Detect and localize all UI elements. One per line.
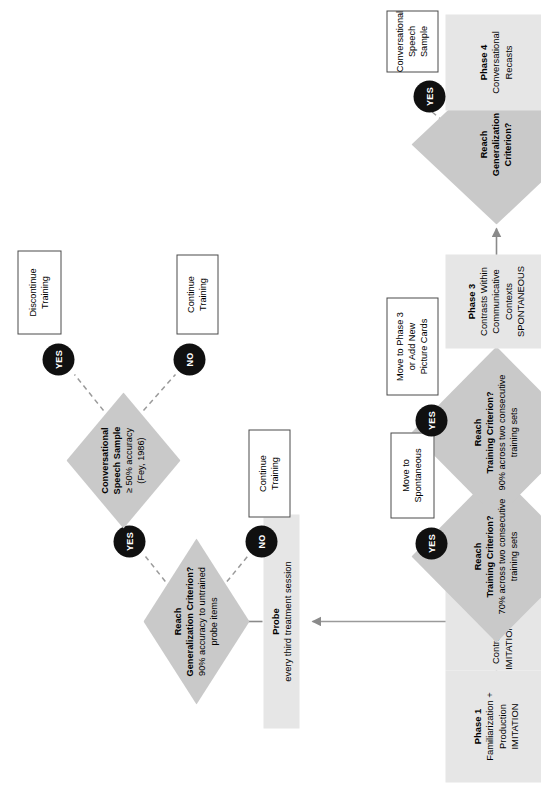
badge-yes-generalization-main: YES — [413, 80, 445, 112]
move-phase3-line1: Move to Phase 3 — [394, 312, 406, 381]
phase-3-box: Phase 3 Contrasts Within Communicative C… — [445, 254, 541, 348]
d2-line2: Training Criterion? — [484, 391, 494, 473]
badge-no-speech-sample: NO — [173, 343, 205, 375]
outcome-continue-training-probe: Continue Training — [248, 429, 290, 517]
dss-line3: ≥ 50% accuracy — [123, 426, 135, 494]
d3-line1: Reach — [478, 130, 488, 158]
badge-label: YES — [426, 534, 436, 553]
dp-line4: probe items — [208, 566, 220, 676]
d2-line1: Reach — [472, 418, 482, 446]
badge-label: YES — [424, 87, 434, 106]
flowchart-canvas: Phase 1 Familiarization + Production IMI… — [0, 0, 541, 810]
phase-3-line1: Contrasts Within Communicative Contexts — [477, 257, 513, 345]
move-spontaneous-line1: Move to — [400, 448, 412, 502]
ct-probe-line2: Training — [269, 455, 281, 492]
outcome-move-to-phase-3: Move to Phase 3 or Add New Picture Cards — [386, 297, 438, 395]
outcome-move-to-spontaneous: Move to Spontaneous — [390, 432, 434, 518]
probe-line1: every third treatment session — [281, 561, 293, 681]
d1-line3: 70% across two consecutive — [496, 498, 508, 614]
d1-line1: Reach — [472, 542, 482, 570]
dss-line2: Speech Sample — [111, 426, 121, 494]
ct-probe-line1: Continue — [257, 455, 269, 492]
css-line1: Conversational — [394, 10, 406, 71]
phase-1-line2: IMITATION — [508, 673, 520, 779]
d2-line3: 90% across two consecutive — [496, 374, 508, 490]
badge-label: YES — [124, 532, 134, 551]
probe-title: Probe — [269, 561, 281, 681]
css-line2: Speech Sample — [406, 10, 430, 71]
badge-label: YES — [53, 350, 63, 369]
badge-yes-generalization-probe: YES — [113, 525, 145, 557]
phase-1-line1: Familiarization + Production — [483, 673, 507, 779]
outcome-discontinue-training: Discontinue Training — [17, 250, 61, 334]
decision-conversational-speech-sample: Conversational Speech Sample ≥ 50% accur… — [66, 392, 180, 528]
ct-sample-line2: Training — [197, 276, 209, 313]
phase-3-line2: SPONTANEOUS — [514, 257, 526, 345]
badge-yes-speech-sample: YES — [42, 343, 74, 375]
phase-4-line1: Conversational Recasts — [489, 17, 513, 107]
ct-sample-line1: Continue — [185, 276, 197, 313]
phase-1-title: Phase 1 — [471, 673, 483, 779]
d3-line2: Generalization — [490, 112, 500, 175]
dp-line2: Generalization Criterion? — [184, 566, 194, 676]
badge-label: NO — [184, 352, 194, 366]
dss-line4: (Fey, 1986) — [135, 426, 147, 494]
dp-line3: 90% accuracy to untrained — [196, 566, 208, 676]
decision-generalization-criterion-probe: Reach Generalization Criterion? 90% accu… — [143, 538, 249, 704]
badge-no-generalization-probe: NO — [245, 525, 277, 557]
discontinue-line1: Discontinue — [27, 268, 39, 316]
dp-line1: Reach — [172, 607, 182, 635]
phase-4-title: Phase 4 — [477, 17, 489, 107]
rotated-canvas: Phase 1 Familiarization + Production IMI… — [0, 0, 541, 810]
dss-line1: Conversational — [99, 427, 109, 493]
badge-label: YES — [426, 411, 436, 430]
outcome-continue-training-sample: Continue Training — [176, 254, 218, 334]
d3-line3: Criterion? — [502, 122, 512, 166]
d1-line2: Training Criterion? — [484, 515, 494, 597]
badge-yes-training-70: YES — [415, 527, 447, 559]
phase-3-title: Phase 3 — [465, 257, 477, 345]
badge-yes-training-90: YES — [415, 404, 447, 436]
outcome-conversational-speech-sample: Conversational Speech Sample — [386, 10, 438, 72]
figure-page: Phase 1 Familiarization + Production IMI… — [0, 0, 541, 810]
move-phase3-line2: or Add New — [406, 312, 418, 381]
move-spontaneous-line2: Spontaneous — [412, 448, 424, 502]
move-phase3-line3: Picture Cards — [418, 312, 430, 381]
badge-label: NO — [256, 534, 266, 548]
d1-line4: training sets — [508, 498, 520, 614]
d2-line4: training sets — [508, 374, 520, 490]
phase-1-box: Phase 1 Familiarization + Production IMI… — [445, 670, 541, 782]
discontinue-line2: Training — [39, 268, 51, 316]
phase-4-box: Phase 4 Conversational Recasts — [445, 14, 541, 110]
